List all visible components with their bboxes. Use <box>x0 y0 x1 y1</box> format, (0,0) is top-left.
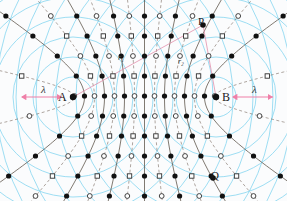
node-open-square <box>155 34 159 38</box>
point-label-p: P <box>198 16 204 27</box>
antinode-dot <box>84 33 89 38</box>
node-open-square <box>132 74 136 78</box>
antinode-dot <box>55 53 60 58</box>
node-open-square <box>234 174 238 178</box>
node-open-square <box>101 34 105 38</box>
antinode-dot <box>165 133 170 138</box>
antinode-dot <box>142 173 147 178</box>
antinode-dot <box>198 153 203 158</box>
antinode-dot <box>82 93 87 98</box>
node-open-circle <box>89 114 94 119</box>
node-open-circle <box>87 194 92 199</box>
antinode-dot <box>121 73 126 78</box>
node-open-square <box>111 74 115 78</box>
antinode-dot <box>142 193 147 198</box>
antinode-dot <box>190 133 195 138</box>
node-open-circle <box>127 14 132 19</box>
interference-diagram: A B P Q r₁ r₂ λ λ <box>0 0 287 201</box>
node-open-circle <box>183 154 188 159</box>
antinode-dot <box>142 133 147 138</box>
node-open-circle <box>195 114 200 119</box>
antinode-dot <box>142 73 147 78</box>
antinodal-line-4 <box>185 0 286 201</box>
node-open-circle <box>155 154 160 159</box>
antinode-dot <box>165 53 170 58</box>
antinode-dot <box>199 33 204 38</box>
node-open-circle <box>159 194 164 199</box>
node-open-square <box>205 134 209 138</box>
antinode-dot <box>177 193 182 198</box>
node-open-circle <box>94 14 99 19</box>
antinode-dot <box>163 113 168 118</box>
node-open-square <box>174 74 178 78</box>
node-open-circle <box>152 94 157 99</box>
antinodal-line--4 <box>3 0 104 201</box>
node-open-circle <box>78 54 83 59</box>
node-open-square <box>196 74 200 78</box>
node-open-circle <box>197 194 202 199</box>
node-open-square <box>183 34 187 38</box>
antinode-dot <box>168 153 173 158</box>
node-open-circle <box>48 14 53 19</box>
ray-label-r2: r₂ <box>178 58 184 66</box>
source-label-a: A <box>58 91 67 103</box>
antinode-dot <box>85 153 90 158</box>
node-open-circle <box>125 194 130 199</box>
node-open-square <box>220 34 224 38</box>
node-open-square <box>79 134 83 138</box>
antinode-dot <box>94 133 99 138</box>
node-open-square <box>64 34 68 38</box>
node-open-circle <box>112 94 117 99</box>
antinode-dot <box>142 93 147 98</box>
antinode-dot <box>184 113 189 118</box>
diagram-canvas <box>0 0 287 201</box>
node-open-square <box>265 74 269 78</box>
wavefront-circle-a-7 <box>0 0 213 201</box>
node-open-square <box>127 174 131 178</box>
antinode-dot <box>75 113 80 118</box>
antinode-dot <box>162 93 167 98</box>
node-open-square <box>190 174 194 178</box>
ray-label-r1: r₁ <box>118 54 124 62</box>
node-open-circle <box>129 154 134 159</box>
antinode-dot <box>115 33 120 38</box>
wavefront-circle-b-7 <box>76 0 287 201</box>
node-open-square <box>95 174 99 178</box>
antinode-dot <box>30 33 35 38</box>
node-open-square <box>129 34 133 38</box>
antinode-dot <box>142 13 147 18</box>
antinode-dot <box>142 33 147 38</box>
node-open-circle <box>27 114 32 119</box>
wavelength-label-right: λ <box>252 84 257 95</box>
antinode-dot <box>116 153 121 158</box>
node-open-circle <box>206 54 211 59</box>
antinode-dot <box>111 13 116 18</box>
antinode-dot <box>209 113 214 118</box>
node-open-square <box>19 74 23 78</box>
antinode-dot <box>172 173 177 178</box>
antinode-dot <box>142 113 147 118</box>
antinode-dot <box>119 133 124 138</box>
antinode-dot <box>229 53 234 58</box>
node-open-circle <box>236 14 241 19</box>
node-open-circle <box>157 14 162 19</box>
antinode-dot <box>163 73 168 78</box>
source-dot-b <box>213 94 219 100</box>
source-label-b: B <box>222 91 230 103</box>
antinode-dot <box>102 93 107 98</box>
antinode-dot <box>33 153 38 158</box>
antinode-dot <box>169 33 174 38</box>
node-open-square <box>153 74 157 78</box>
node-open-circle <box>257 114 262 119</box>
antinode-dot <box>227 133 232 138</box>
antinode-dot <box>64 193 69 198</box>
node-open-circle <box>92 94 97 99</box>
node-open-circle <box>66 154 71 159</box>
node-open-square <box>154 134 158 138</box>
node-open-circle <box>190 14 195 19</box>
antinode-dot <box>75 173 80 178</box>
node-open-square <box>50 174 54 178</box>
node-open-square <box>157 174 161 178</box>
node-open-circle <box>102 154 107 159</box>
antinode-dot <box>122 93 127 98</box>
